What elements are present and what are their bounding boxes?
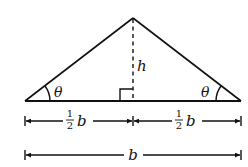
right-angle-arc xyxy=(216,86,221,101)
left-side xyxy=(25,18,133,101)
triangle-diagram: h θ θ 1 2 b 1 2 b b xyxy=(0,0,248,167)
half-base-left-denominator: 2 xyxy=(67,120,73,131)
half-base-left-numerator: 1 xyxy=(67,108,73,119)
right-angle-marker xyxy=(120,89,133,101)
half-base-right-denominator: 2 xyxy=(176,120,182,131)
right-angle-label: θ xyxy=(201,84,210,100)
right-side xyxy=(133,18,241,101)
height-label: h xyxy=(137,57,147,75)
half-base-left-variable: b xyxy=(77,112,87,130)
half-base-right-variable: b xyxy=(186,112,196,130)
left-angle-label: θ xyxy=(54,84,63,100)
half-base-right-numerator: 1 xyxy=(176,108,182,119)
base-label: b xyxy=(128,146,138,164)
left-angle-arc xyxy=(45,86,50,101)
